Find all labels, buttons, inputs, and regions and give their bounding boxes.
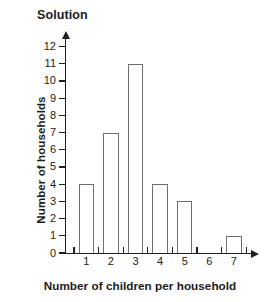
y-tick-label-9: 9 xyxy=(16,93,56,104)
y-tick-label-0: 0 xyxy=(16,248,56,259)
y-tick-8 xyxy=(59,115,66,116)
x-tick-label-2: 2 xyxy=(99,256,123,267)
plot-area: 0123456789101112 1234567 xyxy=(0,0,280,302)
y-tick-label-3: 3 xyxy=(16,196,56,207)
y-tick-label-11: 11 xyxy=(16,58,56,69)
y-tick-5 xyxy=(59,166,66,167)
x-tick-6 xyxy=(221,247,222,254)
x-axis-arrow-icon xyxy=(251,250,259,258)
x-tick-0 xyxy=(73,247,74,254)
bar-2 xyxy=(103,133,119,253)
bar-1 xyxy=(79,184,95,253)
bar-7 xyxy=(226,236,242,253)
y-axis-line xyxy=(65,39,66,254)
y-tick-label-2: 2 xyxy=(16,213,56,224)
x-tick-label-5: 5 xyxy=(173,256,197,267)
y-tick-4 xyxy=(59,184,66,185)
x-tick-4 xyxy=(172,247,173,254)
y-tick-label-5: 5 xyxy=(16,161,56,172)
x-tick-label-3: 3 xyxy=(124,256,148,267)
y-tick-2 xyxy=(59,218,66,219)
x-tick-label-4: 4 xyxy=(148,256,172,267)
bar-4 xyxy=(152,184,168,253)
x-tick-5 xyxy=(196,247,197,254)
y-tick-9 xyxy=(59,98,66,99)
x-tick-3 xyxy=(147,247,148,254)
x-tick-label-6: 6 xyxy=(197,256,221,267)
y-tick-label-6: 6 xyxy=(16,144,56,155)
y-tick-label-12: 12 xyxy=(16,41,56,52)
y-tick-12 xyxy=(59,46,66,47)
y-tick-label-8: 8 xyxy=(16,110,56,121)
y-tick-label-7: 7 xyxy=(16,127,56,138)
x-tick-label-1: 1 xyxy=(74,256,98,267)
x-tick-7 xyxy=(246,247,247,254)
y-tick-label-1: 1 xyxy=(16,230,56,241)
bar-5 xyxy=(177,201,193,253)
y-tick-label-4: 4 xyxy=(16,179,56,190)
x-tick-label-7: 7 xyxy=(222,256,246,267)
y-tick-0 xyxy=(59,252,66,253)
x-tick-2 xyxy=(123,247,124,254)
bar-3 xyxy=(128,64,144,253)
y-tick-10 xyxy=(59,80,66,81)
y-tick-label-10: 10 xyxy=(16,75,56,86)
y-axis-arrow-icon xyxy=(62,31,70,39)
y-tick-3 xyxy=(59,201,66,202)
y-tick-7 xyxy=(59,132,66,133)
y-tick-1 xyxy=(59,235,66,236)
y-tick-6 xyxy=(59,149,66,150)
y-tick-11 xyxy=(59,63,66,64)
x-tick-1 xyxy=(98,247,99,254)
histogram-figure: Solution Number of households Number of … xyxy=(0,0,280,302)
